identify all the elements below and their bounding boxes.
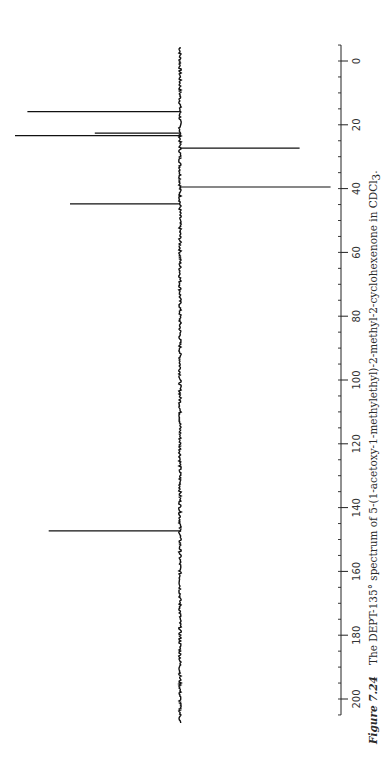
spectrum-peaks xyxy=(15,112,331,531)
tick-label: 20 xyxy=(351,118,362,131)
tick-label: 120 xyxy=(351,434,362,453)
tick-label: 80 xyxy=(351,310,362,323)
tick-label: 100 xyxy=(351,370,362,389)
tick-label: 40 xyxy=(351,182,362,195)
tick-label: 160 xyxy=(351,562,362,581)
caption-label: Figure 7.24 xyxy=(367,676,379,745)
nmr-spectrum-plot: 020406080100120140160180200 Figure 7.24 … xyxy=(0,0,389,759)
svg-text:Figure 7.24 The DEPT-1: Figure 7.24 The DEPT-135° spectrum of 5-… xyxy=(362,170,382,745)
tick-label: 180 xyxy=(351,626,362,645)
caption-subscript: 3 xyxy=(370,174,382,181)
tick-label: 140 xyxy=(351,498,362,517)
dept-135-figure: 020406080100120140160180200 Figure 7.24 … xyxy=(0,0,389,759)
caption-text: The DEPT-135° spectrum of 5-(1-acetoxy-1… xyxy=(367,180,379,665)
tick-label: 200 xyxy=(351,689,362,708)
ppm-axis: 020406080100120140160180200 xyxy=(338,45,362,715)
figure-caption: Figure 7.24 The DEPT-135° spectrum of 5-… xyxy=(362,170,382,745)
tick-label: 0 xyxy=(351,58,362,64)
caption-period: . xyxy=(367,170,379,173)
tick-label: 60 xyxy=(351,246,362,259)
